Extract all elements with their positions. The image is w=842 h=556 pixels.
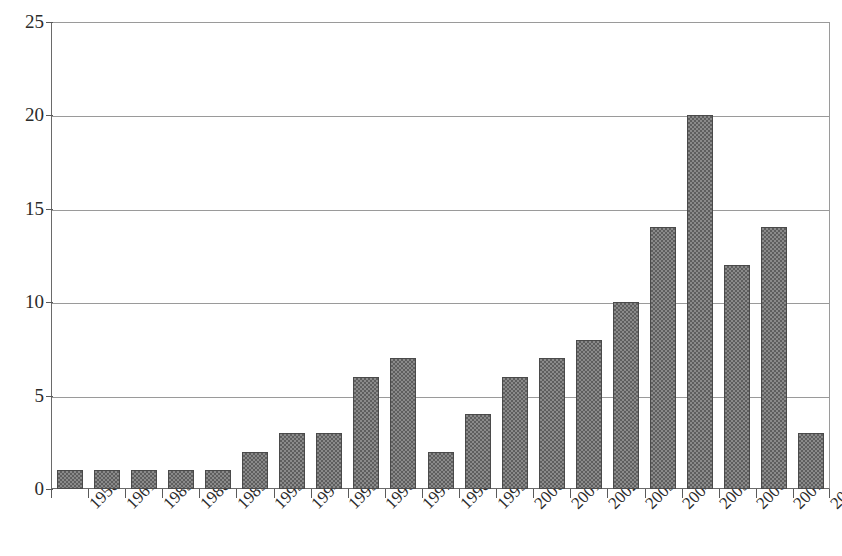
bar <box>205 470 231 489</box>
bar <box>242 452 268 489</box>
x-axis-label: 1997 <box>419 500 431 512</box>
x-axis-label: 2008 <box>827 500 839 512</box>
x-axis-label: 2004 <box>679 500 691 512</box>
bar <box>761 227 787 489</box>
x-axis-label: 1985 <box>160 500 172 512</box>
x-tick <box>125 489 126 498</box>
bar <box>798 433 824 489</box>
y-tick-5 <box>46 396 53 397</box>
x-tick <box>756 489 757 498</box>
x-tick <box>311 489 312 498</box>
x-tick <box>533 489 534 498</box>
x-axis-label: 1996 <box>382 500 394 512</box>
x-axis-label: 2001 <box>568 500 580 512</box>
x-tick <box>385 489 386 498</box>
x-tick <box>829 489 830 498</box>
y-axis-label: 15 <box>2 199 44 218</box>
bar-chart: . . . . . . . . . . . . 0510152025 19581… <box>0 0 842 556</box>
x-tick <box>88 489 89 498</box>
x-tick <box>199 489 200 498</box>
y-axis-label: 0 <box>2 479 44 498</box>
bars-layer <box>51 22 830 489</box>
x-tick <box>274 489 275 498</box>
x-axis-label: 2006 <box>753 500 765 512</box>
x-tick <box>51 489 52 498</box>
y-axis-label: 25 <box>2 12 44 31</box>
x-axis-label: 1988 <box>197 500 209 512</box>
x-axis-label: 1989 <box>234 500 246 512</box>
y-axis-label: 20 <box>2 105 44 124</box>
x-axis-label: 2002 <box>605 500 617 512</box>
y-tick-25 <box>46 22 53 23</box>
x-tick <box>348 489 349 498</box>
bar <box>724 265 750 489</box>
bar <box>279 433 305 489</box>
x-tick <box>719 489 720 498</box>
bar <box>57 470 83 489</box>
x-axis-ticks <box>51 489 830 498</box>
x-axis-label: 2005 <box>716 500 728 512</box>
x-axis-label: 1998 <box>457 500 469 512</box>
bar <box>539 358 565 489</box>
x-axis-label: 2007 <box>790 500 802 512</box>
bar <box>613 302 639 489</box>
bar <box>650 227 676 489</box>
y-axis-label: 10 <box>2 292 44 311</box>
x-axis-label: 1999 <box>494 500 506 512</box>
x-axis-label: 1995 <box>345 500 357 512</box>
chart-title-remnant: . . . . . . . . . . . . <box>130 0 690 4</box>
x-tick <box>570 489 571 498</box>
y-tick-10 <box>46 302 53 303</box>
x-axis-label: 2000 <box>531 500 543 512</box>
bar <box>428 452 454 489</box>
bar <box>687 115 713 489</box>
bar <box>465 414 491 489</box>
x-axis-label: 1958 <box>86 500 98 512</box>
x-axis-label: 2003 <box>642 500 654 512</box>
x-axis-label: 1961 <box>123 500 135 512</box>
x-axis-labels: 1958196119851988198919931994199519961997… <box>51 498 841 556</box>
x-tick <box>607 489 608 498</box>
y-axis-label: 5 <box>2 386 44 405</box>
bar <box>168 470 194 489</box>
x-axis-label: 1994 <box>308 500 320 512</box>
x-tick <box>459 489 460 498</box>
x-tick <box>422 489 423 498</box>
y-axis: 0510152025 <box>0 0 44 556</box>
x-tick <box>793 489 794 498</box>
bar <box>94 470 120 489</box>
x-tick <box>645 489 646 498</box>
x-axis-label: 1993 <box>271 500 283 512</box>
bar <box>390 358 416 489</box>
bar <box>502 377 528 489</box>
bar <box>353 377 379 489</box>
x-tick <box>682 489 683 498</box>
x-tick <box>496 489 497 498</box>
y-tick-15 <box>46 209 53 210</box>
bar <box>131 470 157 489</box>
x-tick <box>236 489 237 498</box>
bar <box>316 433 342 489</box>
y-tick-20 <box>46 115 53 116</box>
y-tick-0 <box>46 489 53 490</box>
x-tick <box>162 489 163 498</box>
bar <box>576 340 602 489</box>
